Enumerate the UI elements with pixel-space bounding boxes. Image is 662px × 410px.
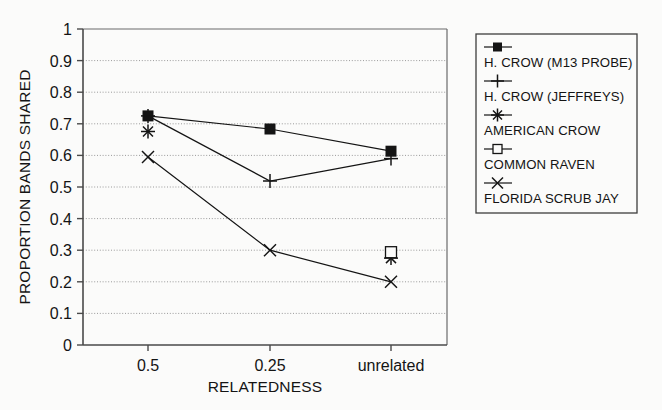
x-tick-label-0.25: 0.25: [254, 357, 285, 374]
line-chart: 1 0.9 0.8 0.7 0.6 0.5 0.4 0.3 0.2 0.1 0 …: [0, 0, 662, 410]
x-tick-marks: [148, 345, 391, 351]
y-tick-label-0.4: 0.4: [50, 211, 72, 228]
legend-item-florida-scrub-jay[interactable]: FLORIDA SCRUB JAY: [484, 178, 619, 207]
open-square-icon: [493, 145, 502, 154]
legend: H. CROW (M13 PROBE) H. CROW (JEFFREYS): [476, 34, 637, 213]
legend-label: FLORIDA SCRUB JAY: [484, 191, 619, 206]
legend-item-common-raven[interactable]: COMMON RAVEN: [484, 145, 595, 173]
y-tick-label-0.2: 0.2: [50, 274, 72, 291]
y-tick-label-0.8: 0.8: [50, 84, 72, 101]
marker-x-cross: [142, 151, 154, 163]
legend-item-american-crow[interactable]: AMERICAN CROW: [484, 109, 601, 139]
y-tick-marks: [77, 29, 83, 345]
x-tick-label-0.5: 0.5: [137, 357, 159, 374]
series-florida-scrub-jay: [142, 151, 397, 288]
legend-label: AMERICAN CROW: [484, 123, 601, 138]
marker-asterisk: [141, 125, 155, 139]
y-tick-label-0.3: 0.3: [50, 242, 72, 259]
y-tick-label-0.1: 0.1: [50, 305, 72, 322]
y-tick-label-1: 1: [63, 21, 72, 38]
marker-filled-square: [265, 124, 276, 135]
y-tick-label-0.9: 0.9: [50, 53, 72, 70]
y-axis-title: PROPORTION BANDS SHARED: [16, 69, 33, 304]
y-tick-label-0: 0: [63, 337, 72, 354]
y-tick-label-0.6: 0.6: [50, 147, 72, 164]
legend-label: COMMON RAVEN: [484, 157, 595, 172]
legend-item-h-crow-m13-probe[interactable]: H. CROW (M13 PROBE): [484, 43, 632, 71]
legend-label: H. CROW (M13 PROBE): [484, 55, 632, 70]
gridlines: [83, 61, 447, 314]
asterisk-icon: [491, 109, 504, 122]
x-axis-title: RELATEDNESS: [208, 378, 323, 395]
plus-icon: [491, 75, 504, 88]
x-tick-label-unrelated: unrelated: [358, 357, 425, 374]
figure-root: 1 0.9 0.8 0.7 0.6 0.5 0.4 0.3 0.2 0.1 0 …: [0, 0, 662, 410]
y-tick-label-0.7: 0.7: [50, 116, 72, 133]
x-tick-labels: 0.5 0.25 unrelated: [137, 357, 424, 374]
marker-plus: [263, 174, 277, 188]
series-common-raven: [386, 247, 397, 258]
y-tick-labels: 1 0.9 0.8 0.7 0.6 0.5 0.4 0.3 0.2 0.1 0: [50, 21, 72, 354]
legend-label: H. CROW (JEFFREYS): [484, 89, 624, 104]
marker-x-cross: [385, 276, 397, 288]
filled-square-icon: [493, 43, 502, 52]
y-tick-label-0.5: 0.5: [50, 179, 72, 196]
series-h-crow-jeffreys: [141, 109, 398, 188]
marker-open-square: [386, 247, 397, 258]
legend-item-h-crow-jeffreys[interactable]: H. CROW (JEFFREYS): [484, 75, 624, 105]
